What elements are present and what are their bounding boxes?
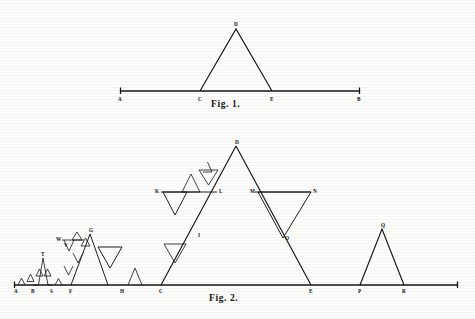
fig1-label-B: B — [357, 96, 361, 102]
micro-bump-1 — [18, 278, 25, 285]
fig2-label-R: R — [402, 288, 406, 294]
fig2-label-O: O — [285, 235, 289, 241]
medium-inv-tri-H — [98, 247, 122, 268]
fig2-label-M: M — [250, 188, 255, 194]
figure-canvas: A C E B D — [0, 0, 475, 319]
large-up-tri-KL — [182, 174, 200, 192]
large-side-CD — [161, 146, 236, 285]
fig2-stage-small-BS — [33, 258, 62, 285]
fig2-label-N: N — [313, 188, 317, 194]
fig1-label-C: C — [198, 96, 202, 102]
fig1-label-E: E — [270, 96, 274, 102]
figure-2-group: A B S F H C E P R T W V G I K L D M N O … — [14, 139, 458, 294]
figure-1-group: A C E B D — [118, 21, 361, 102]
fig2-labels: A B S F H C E P R T W V G I K L D M N O … — [14, 139, 406, 294]
fig2-label-E: E — [309, 288, 313, 294]
final-triangle-PQR — [360, 229, 404, 285]
medium-lower-left-notch — [64, 266, 73, 275]
fig2-label-Q: Q — [381, 222, 385, 228]
fig2-label-T: T — [41, 251, 45, 257]
fig2-label-P: P — [358, 288, 362, 294]
fig2-label-W: W — [56, 236, 62, 242]
fig2-label-A: A — [14, 288, 18, 294]
fig2-label-V: V — [64, 242, 68, 248]
fig2-label-C: C — [159, 288, 163, 294]
fig2-stage-medium-FG — [62, 232, 142, 285]
large-side-DE — [236, 146, 311, 285]
medium-up-tri-1 — [72, 232, 82, 240]
fig2-label-H: H — [120, 288, 124, 294]
fig2-label-L: L — [219, 188, 223, 194]
fig2-label-I: I — [198, 232, 200, 238]
fig1-label-D: D — [234, 21, 238, 27]
small-sub-left — [36, 269, 43, 276]
fig2-label-B: B — [31, 288, 35, 294]
fig2-label-G: G — [89, 227, 93, 233]
fig2-label-K: K — [155, 188, 159, 194]
fig2-stage-final-PQR — [360, 229, 404, 285]
fig2-stage-micro-A — [18, 274, 34, 285]
fig2-label-F: F — [69, 288, 72, 294]
large-up-tri-D-left — [203, 162, 212, 172]
large-inv-tri-K — [163, 192, 187, 215]
micro-bump-2 — [27, 274, 34, 282]
fig2-label-S: S — [50, 288, 53, 294]
small-bump-3 — [55, 279, 62, 286]
fig2-label-D: D — [235, 139, 239, 145]
large-inv-tri-MNO — [258, 192, 311, 238]
fig1-triangle-CDE — [200, 29, 272, 91]
medium-bump-HC — [128, 268, 142, 285]
fig2-stage-large-CDE — [161, 146, 311, 285]
figure-2-caption: Fig. 2. — [209, 293, 238, 303]
fig1-label-A: A — [118, 96, 122, 102]
figure-1-caption: Fig. 1. — [211, 99, 240, 109]
